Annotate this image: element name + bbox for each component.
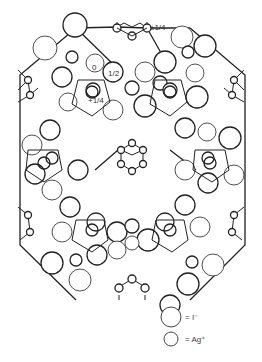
- legend-iodide-label: = I⁻: [185, 313, 198, 322]
- iodide-symbol-icon: [161, 307, 181, 327]
- label-origin: 0: [92, 63, 97, 72]
- crystal-structure-diagram: ±1/4 0 1/2 +1/4 = I⁻ = Ag⁺: [0, 0, 262, 362]
- label-half: 1/2: [108, 69, 120, 78]
- silver-symbol-icon: [164, 332, 178, 346]
- label-quarter: +1/4: [88, 96, 104, 105]
- legend-silver-label: = Ag⁺: [185, 335, 205, 344]
- label-top-height: ±1/4: [150, 23, 166, 32]
- legend: = I⁻ = Ag⁺: [161, 307, 205, 346]
